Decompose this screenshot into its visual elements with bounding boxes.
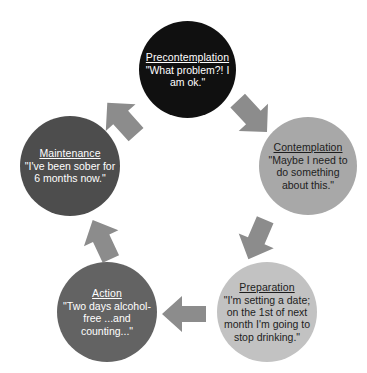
stage-preparation-label: Preparation [239,281,294,293]
stage-contemplation-label: Contemplation [273,141,342,153]
stage-preparation: Preparation "I'm setting a date; on the … [217,262,317,362]
stage-preparation-quote: "I'm setting a date; on the 1st of next … [217,294,317,344]
stage-precontemplation-label: Precontemplation [146,51,229,63]
stage-contemplation-quote: "Maybe I need to do something about this… [259,154,357,191]
arrow-preparation-to-action-icon [160,294,208,334]
arrow-precontemplation-to-contemplation-icon [228,92,276,140]
stage-action-label: Action [92,287,122,299]
stage-precontemplation-quote: "What problem?! I am ok." [139,64,236,89]
stage-maintenance-label: Maintenance [39,147,100,159]
stage-action: Action "Two days alcohol-free ...and cou… [57,262,157,362]
arrow-action-to-maintenance-icon [79,216,125,264]
stage-precontemplation: Precontemplation "What problem?! I am ok… [139,21,236,118]
stage-contemplation: Contemplation "Maybe I need to do someth… [259,117,357,215]
arrow-contemplation-to-preparation-icon [234,215,280,263]
stages-of-change-diagram: Precontemplation "What problem?! I am ok… [0,0,367,373]
stage-maintenance: Maintenance "I've been sober for 6 month… [20,116,120,216]
stage-action-quote: "Two days alcohol-free ...and counting..… [57,300,157,337]
stage-maintenance-quote: "I've been sober for 6 months now." [20,160,120,185]
